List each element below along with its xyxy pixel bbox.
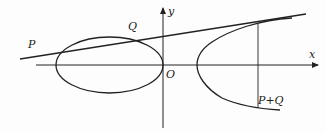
x-axis-label: x <box>309 48 316 61</box>
y-axis-label: y <box>167 5 175 18</box>
point-p-label: P <box>27 38 36 51</box>
diagram-svg: y x O P Q P+Q <box>0 0 325 133</box>
point-q-label: Q <box>128 20 137 33</box>
elliptic-curve-diagram: y x O P Q P+Q <box>0 0 325 133</box>
sum-point-label: P+Q <box>257 94 284 107</box>
origin-label: O <box>166 68 175 81</box>
